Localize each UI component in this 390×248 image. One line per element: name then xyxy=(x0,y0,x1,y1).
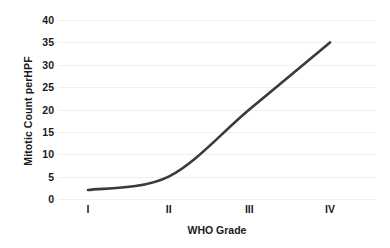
y-tick-label-30: 30 xyxy=(28,60,54,71)
y-tick-label-35: 35 xyxy=(28,37,54,48)
x-axis-title: WHO Grade xyxy=(58,224,376,236)
y-tick-label-20: 20 xyxy=(28,105,54,116)
x-tick-label-IV: IV xyxy=(310,204,350,215)
y-tick-label-5: 5 xyxy=(28,172,54,183)
gridline-y-0 xyxy=(58,199,376,200)
x-tick-label-III: III xyxy=(229,204,269,215)
plot-area xyxy=(58,20,376,199)
x-tick-label-II: II xyxy=(149,204,189,215)
y-tick-label-25: 25 xyxy=(28,82,54,93)
y-tick-label-0: 0 xyxy=(28,194,54,205)
y-axis-tick-labels: 0510152025303540 xyxy=(26,0,54,248)
x-axis-tick-labels: IIIIIIIV xyxy=(58,204,376,220)
series-line-chart xyxy=(58,20,376,199)
mitotic-count-line-chart: Mitotic Count perHPF 0510152025303540 II… xyxy=(0,0,390,248)
y-tick-label-10: 10 xyxy=(28,149,54,160)
x-tick-label-I: I xyxy=(68,204,108,215)
y-tick-label-15: 15 xyxy=(28,127,54,138)
series-path-mitotic-count xyxy=(88,42,330,190)
y-tick-label-40: 40 xyxy=(28,15,54,26)
